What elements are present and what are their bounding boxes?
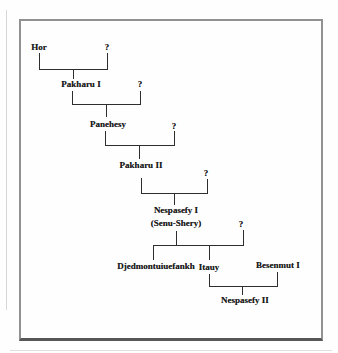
person-hor: Hor: [31, 42, 47, 52]
marriage4-left-line: [141, 178, 142, 194]
figure-frame: [19, 19, 323, 341]
marriage5-right-line: [243, 230, 244, 246]
child-line-djedmontuiuefankh: [153, 245, 154, 260]
marriage2-right-line: [140, 91, 141, 105]
scanned-family-tree-figure: Hor ? Pakharu I ? Panehesy ? Pakharu II …: [0, 0, 338, 353]
person-besenmut-i: Besenmut I: [256, 260, 300, 270]
person-unknown-spouse-5: ?: [239, 219, 244, 229]
marriage1-left-line: [39, 53, 40, 70]
person-nespasefy-i: Nespasefy I: [154, 205, 198, 215]
person-djedmontuiuefankh: Djedmontuiuefankh: [117, 261, 195, 271]
marriage6-bracket-line: [209, 286, 278, 287]
marriage3-descent-line: [139, 145, 140, 159]
person-pakharu-i: Pakharu I: [61, 79, 100, 89]
person-panehesy: Panehesy: [90, 119, 126, 129]
marriage3-bracket-line: [105, 145, 175, 146]
person-unknown-spouse-1: ?: [105, 42, 110, 52]
person-unknown-spouse-3: ?: [172, 121, 177, 131]
marriage3-left-line: [105, 131, 106, 146]
marriage6-right-line: [277, 272, 278, 287]
marriage1-right-line: [107, 53, 108, 70]
marriage2-left-line: [72, 91, 73, 105]
marriage5-children-bracket-line: [153, 245, 244, 246]
marriage4-descent-line: [174, 193, 175, 205]
page-edge-artifact-left: [6, 10, 7, 310]
child-line-itauy: [209, 245, 210, 260]
person-unknown-spouse-4: ?: [204, 168, 209, 178]
person-nespasefy-ii: Nespasefy II: [221, 295, 269, 305]
person-pakharu-ii: Pakharu II: [120, 160, 163, 170]
marriage1-descent-line: [73, 69, 74, 79]
person-unknown-spouse-2: ?: [138, 79, 143, 89]
marriage6-descent-line: [242, 286, 243, 295]
marriage4-right-line: [207, 179, 208, 194]
marriage2-descent-line: [106, 104, 107, 117]
person-itauy: Itauy: [199, 262, 220, 272]
person-nespasefy-i-alias: (Senu-Shery): [151, 218, 202, 228]
page-edge-artifact-bottom: [10, 350, 332, 351]
marriage5-left-line: [176, 231, 177, 246]
marriage3-right-line: [174, 131, 175, 146]
